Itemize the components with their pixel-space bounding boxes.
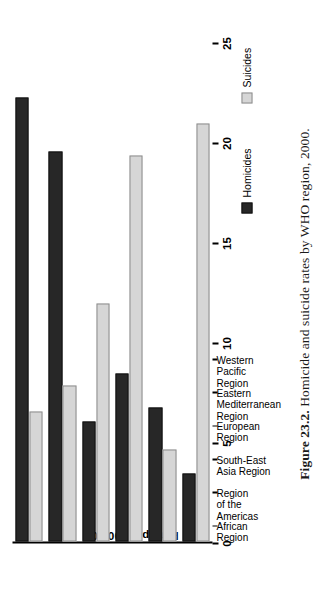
legend-label: Homicides — [240, 148, 252, 197]
legend-label: Suicides — [240, 47, 252, 87]
bar-suicides — [62, 385, 76, 541]
chart-legend: HomicidesSuicides — [222, 43, 262, 543]
bar-suicides — [29, 411, 43, 541]
figure-caption-text: Homicide and suicide rates by WHO region… — [296, 128, 311, 407]
legend-swatch-homicides-icon — [241, 202, 252, 213]
figure-root: Rate per 100,000 0510152025 African Regi… — [0, 0, 331, 607]
rotated-chart-stage: Rate per 100,000 0510152025 African Regi… — [0, 0, 331, 607]
bar-suicides — [96, 303, 110, 541]
legend-item-homicides[interactable]: Homicides — [240, 148, 252, 213]
bar-group — [45, 43, 78, 541]
bar-homicides — [82, 421, 96, 541]
bar-homicides — [115, 373, 129, 541]
bar-group — [145, 43, 178, 541]
bar-suicides — [162, 449, 176, 541]
bar-homicides — [48, 151, 62, 541]
bar-groups — [12, 43, 212, 541]
figure-caption: Figure 23.2. Homicide and suicide rates … — [296, 0, 312, 607]
figure-number: Figure 23.2. — [296, 410, 311, 480]
bar-homicides — [148, 407, 162, 541]
legend-swatch-suicides-icon — [241, 92, 252, 103]
bar-suicides — [196, 123, 210, 541]
legend-item-suicides[interactable]: Suicides — [240, 47, 252, 103]
bar-chart: Rate per 100,000 0510152025 African Regi… — [0, 0, 331, 607]
bar-homicides — [15, 97, 29, 541]
bar-group — [79, 43, 112, 541]
bar-group — [12, 43, 45, 541]
bar-group — [179, 43, 212, 541]
bar-group — [112, 43, 145, 541]
plot-area: 0510152025 — [12, 43, 212, 543]
bar-suicides — [129, 155, 143, 541]
bar-homicides — [182, 473, 196, 541]
